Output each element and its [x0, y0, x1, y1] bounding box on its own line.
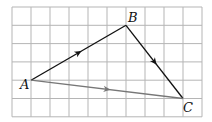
- vector-triangle-diagram: A B C: [0, 0, 212, 122]
- label-a: A: [19, 77, 29, 92]
- label-c: C: [183, 100, 193, 115]
- arrowhead-icon: [150, 57, 157, 64]
- grid: [12, 7, 202, 117]
- label-b: B: [127, 10, 138, 25]
